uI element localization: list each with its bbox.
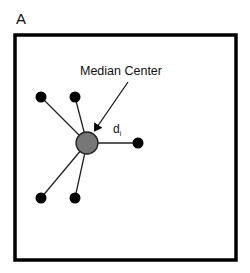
point-p3	[133, 138, 144, 149]
median-center-diagram	[0, 0, 250, 273]
point-p5	[70, 193, 81, 204]
distance-label: di	[113, 122, 121, 137]
distance-symbol: d	[113, 122, 120, 136]
median-center-point	[76, 132, 98, 154]
point-p2	[70, 92, 81, 103]
median-center-label: Median Center	[80, 64, 162, 78]
panel-label: A	[16, 10, 26, 27]
arrow-to-median-center	[95, 82, 128, 130]
point-p4	[36, 193, 47, 204]
distance-subscript: i	[120, 130, 122, 137]
point-p1	[36, 92, 47, 103]
